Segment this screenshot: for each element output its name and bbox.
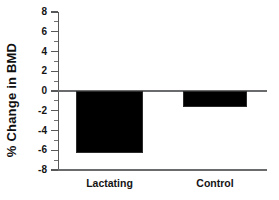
y-tick-8: [51, 11, 58, 12]
x-tick-label-control: Control: [196, 177, 233, 189]
y-tick-label-6: 6: [7, 27, 47, 37]
y-tick-label--4: -4: [7, 126, 47, 136]
bar-control: [183, 91, 247, 107]
x-tick-label-lactating: Lactating: [86, 177, 133, 189]
y-minor-tick: [54, 81, 58, 82]
y-tick-label-8: 8: [7, 7, 47, 17]
y-minor-tick: [54, 140, 58, 141]
y-tick--4: [51, 130, 58, 131]
y-tick-label--6: -6: [7, 145, 47, 155]
bar-lactating: [76, 91, 143, 153]
y-tick-label--8: -8: [7, 165, 47, 175]
x-axis-line: [58, 169, 267, 171]
y-tick-label-0: 0: [7, 86, 47, 96]
y-tick-label-2: 2: [7, 66, 47, 76]
y-tick--6: [51, 150, 58, 151]
y-tick--2: [51, 110, 58, 111]
y-tick-0: [51, 90, 58, 91]
y-tick-label--2: -2: [7, 106, 47, 116]
y-tick-label-4: 4: [7, 47, 47, 57]
y-tick--8: [51, 169, 58, 170]
y-minor-tick: [54, 41, 58, 42]
y-minor-tick: [54, 61, 58, 62]
y-minor-tick: [54, 160, 58, 161]
y-minor-tick: [54, 21, 58, 22]
y-minor-tick: [54, 120, 58, 121]
y-tick-2: [51, 71, 58, 72]
y-tick-6: [51, 31, 58, 32]
y-minor-tick: [54, 100, 58, 101]
y-tick-4: [51, 51, 58, 52]
bar-chart-figure: % Change in BMD 86420-2-4-6-8 LactatingC…: [0, 0, 279, 200]
